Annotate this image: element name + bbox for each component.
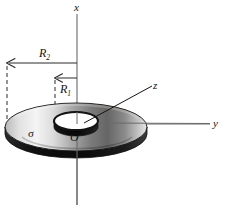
y-axis-front-segment <box>98 123 210 124</box>
surface-charge-density-label: σ <box>28 128 34 139</box>
x-axis-label: x <box>74 2 79 13</box>
inner-radius-subscript: 1 <box>67 89 71 98</box>
physics-diagram-annular-disk: x y z R2 R1 O σ <box>0 0 225 213</box>
y-axis-label: y <box>213 118 218 129</box>
diagram-canvas <box>0 0 225 213</box>
outer-radius-subscript: 2 <box>46 53 50 62</box>
origin-label: O <box>70 131 79 143</box>
inner-radius-label: R1 <box>60 83 71 95</box>
outer-radius-label: R2 <box>39 47 50 59</box>
disk-hole-opening <box>54 112 98 130</box>
z-axis-label: z <box>153 80 157 91</box>
